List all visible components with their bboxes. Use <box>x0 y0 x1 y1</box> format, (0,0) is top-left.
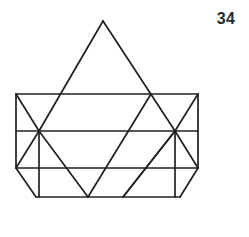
edge-group <box>16 21 198 197</box>
figure-edge-inner-left-descender <box>39 131 88 197</box>
figure-number-label: 34 <box>217 11 235 27</box>
figure-canvas: 34 <box>0 0 249 237</box>
figure-edge-triangle-left-leg <box>39 21 103 131</box>
figure-edge-bottom-left-slant <box>16 168 36 197</box>
figure-edge-left-diag-down <box>16 94 39 131</box>
figure-edge-left-diag-up <box>16 131 39 168</box>
figure-edge-right-diag-up <box>175 131 198 168</box>
line-figure-diagram <box>0 0 249 237</box>
figure-edge-long-diag-lower <box>123 131 175 197</box>
figure-edge-right-diag-down <box>175 94 198 131</box>
figure-edge-long-diag-upper <box>88 94 151 197</box>
figure-edge-bottom-right-slant <box>180 168 198 197</box>
